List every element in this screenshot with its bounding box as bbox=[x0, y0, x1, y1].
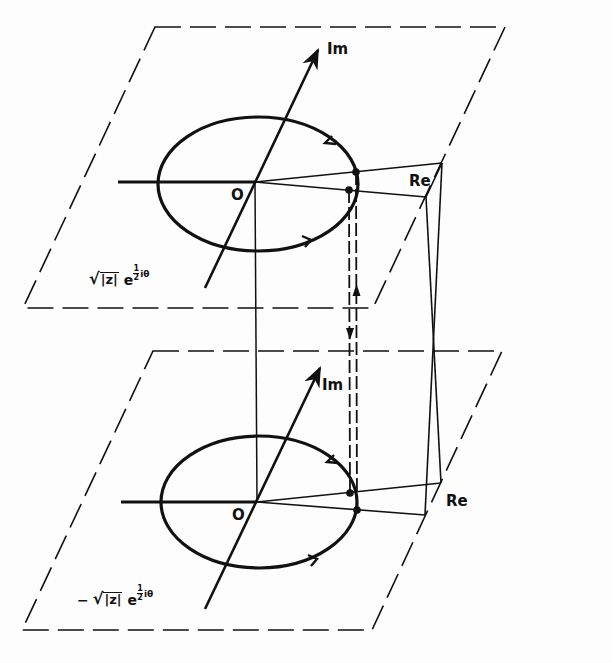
upper-re-label: Re bbox=[409, 172, 431, 190]
transition-arrow-up bbox=[353, 284, 361, 296]
transition-line-left bbox=[349, 190, 350, 493]
upper-ray-2 bbox=[255, 182, 426, 197]
half-fraction: 1 2 bbox=[137, 585, 143, 602]
lower-ray-2 bbox=[257, 502, 425, 515]
lower-imaginary-axis bbox=[205, 368, 320, 609]
lower-im-label: Im bbox=[322, 376, 343, 394]
riemann-surface-diagram: Im Re O Im Re O √|z| e 1 2 iθ − √|z| e 1 bbox=[0, 0, 612, 663]
transition-arrow-down bbox=[346, 328, 354, 340]
half-fraction: 1 2 bbox=[133, 265, 139, 282]
exponential: e 1 2 iθ bbox=[124, 273, 150, 287]
upper-im-label: Im bbox=[327, 40, 348, 58]
upper-origin-label: O bbox=[231, 186, 244, 204]
sqrt-symbol: √|z| bbox=[93, 591, 123, 607]
upper-plane bbox=[23, 27, 505, 308]
origin-link-line bbox=[255, 182, 257, 502]
lower-origin-label: O bbox=[232, 506, 245, 524]
upper-contour-ellipse bbox=[158, 117, 358, 251]
lower-plane-formula: − √|z| e 1 2 iθ bbox=[77, 591, 153, 607]
transition-line-right bbox=[356, 172, 357, 510]
diagram-drawing bbox=[0, 0, 612, 663]
upper-plane-formula: √|z| e 1 2 iθ bbox=[89, 271, 150, 287]
upper-plane-outline bbox=[23, 27, 505, 308]
sqrt-symbol: √|z| bbox=[89, 271, 119, 287]
lower-re-label: Re bbox=[446, 492, 468, 510]
connectors bbox=[255, 163, 442, 515]
exponential: e 1 2 iθ bbox=[127, 593, 153, 607]
